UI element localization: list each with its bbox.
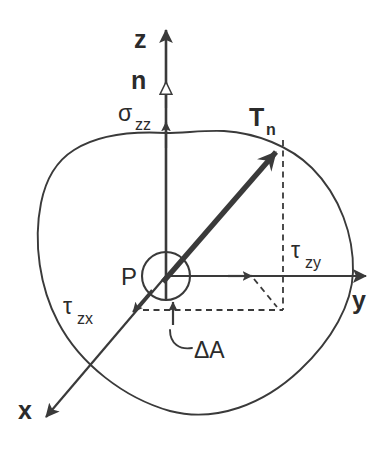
sigma-zz-subscript: zz [135, 116, 151, 133]
sigma-zz-label: σ [118, 100, 132, 126]
normal-vector-label: n [131, 66, 146, 94]
origin-point-label: P [121, 263, 137, 290]
area-element-label: ΔA [194, 337, 225, 363]
tau-zy-subscript: zy [305, 254, 321, 271]
area-element-leader [170, 330, 192, 348]
axis-y-label: y [352, 286, 366, 314]
traction-vector-Tn [163, 152, 276, 282]
tau-zx-label: τ [63, 293, 72, 319]
traction-vector-label: T [249, 103, 264, 131]
tau-zx-subscript: zx [77, 310, 93, 327]
stress-diagram-canvas: z n σ zz T n τ zy y τ zx P ΔA x [0, 0, 391, 452]
stress-diagram-figure: z n σ zz T n τ zy y τ zx P ΔA x [0, 0, 391, 452]
axis-x-label: x [18, 396, 32, 424]
diagram-labels: z n σ zz T n τ zy y τ zx P ΔA x [18, 25, 366, 424]
dashed-diagonal-projection [254, 279, 277, 307]
axis-z-label: z [134, 25, 147, 53]
traction-vector-subscript: n [266, 121, 276, 138]
tau-zy-label: τ [291, 237, 300, 263]
traction-vector-shaft [163, 152, 276, 282]
